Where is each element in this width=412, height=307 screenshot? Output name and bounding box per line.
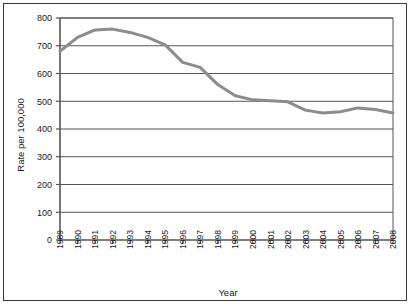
y-tick-label: 300 <box>37 152 52 162</box>
x-tick-label: 2006 <box>353 230 363 249</box>
x-tick-label: 2005 <box>336 230 346 249</box>
y-tick-label: 100 <box>37 208 52 218</box>
gridlines <box>60 18 393 212</box>
y-tick-label: 600 <box>37 69 52 79</box>
chart-figure: 0100200300400500600700800 19891990199119… <box>0 0 412 307</box>
x-tick-label: 1992 <box>108 230 118 249</box>
line-chart: 0100200300400500600700800 19891990199119… <box>0 0 412 307</box>
x-axis-title: Year <box>218 287 237 298</box>
x-tick-label: 2002 <box>283 230 293 249</box>
x-tick-label: 1999 <box>230 230 240 249</box>
y-tick-label: 800 <box>37 13 52 23</box>
x-tick-label: 2000 <box>248 230 258 249</box>
x-tick-label: 2007 <box>371 230 381 249</box>
x-tick-label: 2008 <box>388 230 398 249</box>
x-tick-label: 1989 <box>55 230 65 249</box>
x-tick-label: 1996 <box>178 230 188 249</box>
x-tick-label: 1990 <box>73 230 83 249</box>
x-tick-label: 2001 <box>266 230 276 249</box>
x-tick-label: 1991 <box>90 230 100 249</box>
x-tick-label: 2003 <box>301 230 311 249</box>
x-tick-label: 1995 <box>160 230 170 249</box>
y-axis-title: Rate per 100,000 <box>15 98 26 171</box>
data-series-line <box>60 29 393 113</box>
y-tick-label: 200 <box>37 180 52 190</box>
x-tick-label: 1997 <box>195 230 205 249</box>
y-tick-label: 700 <box>37 41 52 51</box>
y-axis-tick-labels: 0100200300400500600700800 <box>37 13 52 245</box>
y-tick-label: 500 <box>37 97 52 107</box>
x-tick-label: 1998 <box>213 230 223 249</box>
y-tick-label: 400 <box>37 124 52 134</box>
x-tick-label: 1993 <box>125 230 135 249</box>
x-tick-label: 2004 <box>318 230 328 249</box>
x-tick-label: 1994 <box>143 230 153 249</box>
y-tick-label: 0 <box>47 235 52 245</box>
